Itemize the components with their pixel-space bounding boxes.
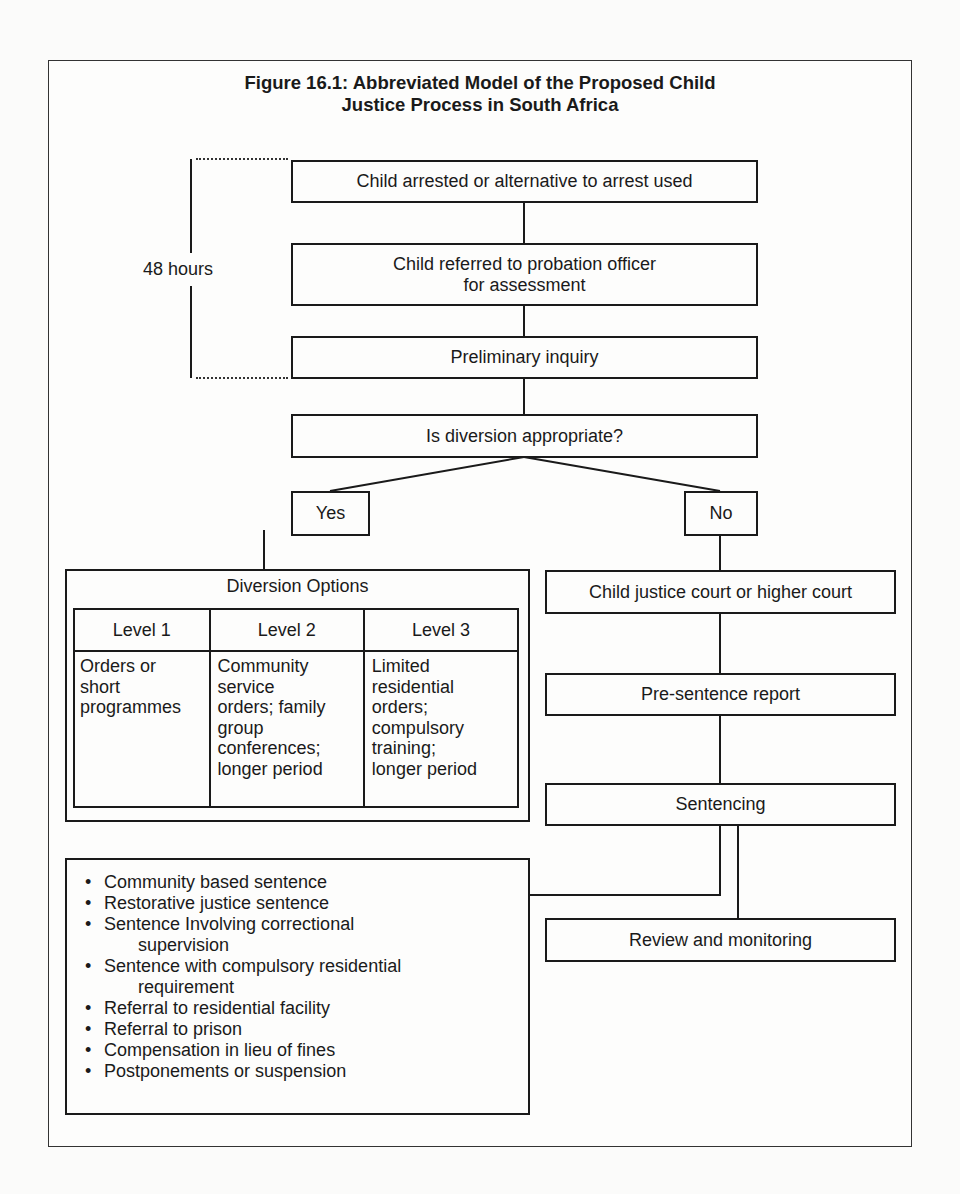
- sentence-option: •Compensation in lieu of fines: [81, 1040, 518, 1061]
- branch-yes: Yes: [291, 491, 370, 536]
- step-sentencing-label: Sentencing: [675, 794, 765, 815]
- levels-content-row: Orders or short programmes Community ser…: [74, 651, 518, 807]
- level-3-content: Limited residential orders; compulsory t…: [364, 651, 518, 807]
- diversion-options-title: Diversion Options: [67, 576, 528, 597]
- sentence-option: •Referral to prison: [81, 1019, 518, 1040]
- sentence-option-text: Sentence with compulsory residential: [104, 956, 401, 976]
- branch-yes-label: Yes: [316, 503, 345, 524]
- sentence-option-text: Postponements or suspension: [104, 1061, 346, 1081]
- level-2-line: service: [218, 677, 359, 698]
- decision-diversion-label: Is diversion appropriate?: [426, 426, 623, 447]
- step-presentence-label: Pre-sentence report: [641, 684, 800, 705]
- level-1-line: short: [80, 677, 205, 698]
- step-review-monitoring: Review and monitoring: [545, 918, 896, 962]
- step-arrest-label: Child arrested or alternative to arrest …: [356, 171, 692, 192]
- branch-no-label: No: [709, 503, 732, 524]
- level-2-header: Level 2: [210, 609, 364, 651]
- sentence-option-text: Sentence Involving correctional: [104, 914, 354, 934]
- level-1-header: Level 1: [74, 609, 210, 651]
- level-2-line: longer period: [218, 759, 359, 780]
- sentence-option-continuation: supervision: [104, 935, 518, 956]
- sentence-option: •Referral to residential facility: [81, 998, 518, 1019]
- bullet-icon: •: [85, 872, 91, 893]
- timeframe-label: 48 hours: [143, 259, 213, 280]
- sentence-option-continuation: requirement: [104, 977, 518, 998]
- step-presentence-report: Pre-sentence report: [545, 673, 896, 716]
- level-3-line: compulsory: [372, 718, 513, 739]
- sentence-options-list: •Community based sentence •Restorative j…: [81, 872, 518, 1082]
- level-1-line: Orders or: [80, 656, 205, 677]
- bracket-bottom-dotted-line: [196, 377, 288, 379]
- sentence-options-box: •Community based sentence •Restorative j…: [65, 858, 530, 1115]
- bullet-icon: •: [85, 914, 91, 935]
- step-court: Child justice court or higher court: [545, 570, 896, 614]
- level-2-line: group: [218, 718, 359, 739]
- level-3-header: Level 3: [364, 609, 518, 651]
- level-2-line: orders; family: [218, 697, 359, 718]
- step-referral-line2: for assessment: [463, 275, 585, 296]
- level-3-line: longer period: [372, 759, 513, 780]
- level-3-line: orders;: [372, 697, 513, 718]
- step-court-label: Child justice court or higher court: [589, 582, 852, 603]
- levels-header-row: Level 1 Level 2 Level 3: [74, 609, 518, 651]
- sentence-option-text: Restorative justice sentence: [104, 893, 329, 913]
- bullet-icon: •: [85, 893, 91, 914]
- level-2-line: conferences;: [218, 738, 359, 759]
- step-review-label: Review and monitoring: [629, 930, 812, 951]
- sentence-option: •Sentence with compulsory residentialreq…: [81, 956, 518, 998]
- sentence-option-text: Compensation in lieu of fines: [104, 1040, 335, 1060]
- step-referral-line1: Child referred to probation officer: [393, 254, 656, 275]
- step-preliminary-label: Preliminary inquiry: [450, 347, 598, 368]
- step-arrest: Child arrested or alternative to arrest …: [291, 160, 758, 203]
- branch-no: No: [684, 491, 758, 536]
- level-1-line: programmes: [80, 697, 205, 718]
- bullet-icon: •: [85, 1019, 91, 1040]
- sentence-option: •Sentence Involving correctionalsupervis…: [81, 914, 518, 956]
- step-referral: Child referred to probation officer for …: [291, 243, 758, 306]
- sentence-option-text: Community based sentence: [104, 872, 327, 892]
- level-2-line: Community: [218, 656, 359, 677]
- bullet-icon: •: [85, 1040, 91, 1061]
- level-1-content: Orders or short programmes: [74, 651, 210, 807]
- sentence-option-text: Referral to prison: [104, 1019, 242, 1039]
- bullet-icon: •: [85, 956, 91, 977]
- bracket-top-dotted-line: [196, 158, 288, 160]
- decision-diversion: Is diversion appropriate?: [291, 414, 758, 458]
- bullet-icon: •: [85, 998, 91, 1019]
- bullet-icon: •: [85, 1061, 91, 1082]
- sentence-option: •Postponements or suspension: [81, 1061, 518, 1082]
- diversion-levels-table: Level 1 Level 2 Level 3 Orders or short …: [73, 608, 519, 808]
- sentence-option-text: Referral to residential facility: [104, 998, 330, 1018]
- sentence-option: •Community based sentence: [81, 872, 518, 893]
- level-3-line: residential: [372, 677, 513, 698]
- level-3-line: Limited: [372, 656, 513, 677]
- level-3-line: training;: [372, 738, 513, 759]
- step-sentencing: Sentencing: [545, 783, 896, 826]
- diversion-options-box: Diversion Options Level 1 Level 2 Level …: [65, 569, 530, 822]
- sentence-option: •Restorative justice sentence: [81, 893, 518, 914]
- level-2-content: Community service orders; family group c…: [210, 651, 364, 807]
- step-preliminary-inquiry: Preliminary inquiry: [291, 336, 758, 379]
